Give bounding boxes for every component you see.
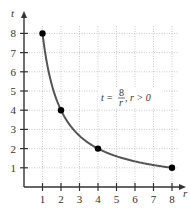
x-tick-label: 8 — [169, 193, 175, 205]
x-tick-label: 6 — [132, 193, 138, 205]
y-tick-label: 7 — [11, 47, 17, 59]
x-tick-label: 2 — [58, 193, 64, 205]
equation-annotation: t = 8 r , r > 0 — [98, 87, 164, 108]
annotation-lhs: t = — [101, 92, 113, 103]
y-tick-label: 3 — [11, 123, 17, 135]
x-tick-label: 7 — [151, 193, 157, 205]
data-point — [39, 30, 45, 36]
data-point — [58, 107, 64, 113]
data-point — [169, 165, 175, 171]
x-tick-label: 3 — [77, 193, 83, 205]
x-tick-label: 5 — [114, 193, 120, 205]
y-tick-label: 1 — [11, 162, 17, 174]
chart: 1234567812345678 r t t = 8 r , r > 0 — [0, 0, 190, 213]
annotation-denominator: r — [119, 97, 123, 108]
y-tick-label: 4 — [11, 104, 17, 116]
x-tick-label: 4 — [95, 193, 101, 205]
y-tick-label: 8 — [11, 27, 17, 39]
annotation-condition: , r > 0 — [125, 92, 151, 103]
y-tick-label: 2 — [11, 143, 17, 155]
svg-text:t =: t = — [101, 92, 113, 103]
y-axis-arrow-icon — [21, 11, 27, 18]
y-tick-label: 6 — [11, 66, 17, 78]
y-tick-label: 5 — [11, 85, 17, 97]
data-point — [95, 145, 101, 151]
x-axis-label: r — [183, 187, 188, 199]
y-axis-label: t — [11, 7, 15, 19]
ticks: 1234567812345678 — [11, 27, 176, 205]
x-tick-label: 1 — [40, 193, 46, 205]
